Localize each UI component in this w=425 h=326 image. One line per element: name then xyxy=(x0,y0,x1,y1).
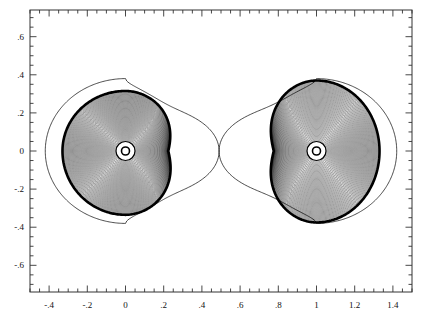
y-tick-label: -.6 xyxy=(2,260,24,270)
x-tick-label: 0 xyxy=(123,300,128,310)
contour-curves xyxy=(45,79,396,224)
y-tick-label: .6 xyxy=(2,32,24,42)
x-tick-label: -.2 xyxy=(82,300,92,310)
plot-canvas xyxy=(0,0,425,326)
x-tick-label: .8 xyxy=(275,300,282,310)
x-tick-label: .6 xyxy=(237,300,244,310)
x-tick-label: 1.2 xyxy=(349,300,360,310)
contour-plot-figure: -.4-.20.2.4.6.811.21.4 .6.4.20-.2-.4-.6 xyxy=(0,0,425,326)
x-tick-label: .2 xyxy=(160,300,167,310)
x-tick-label: .4 xyxy=(199,300,206,310)
y-tick-label: .4 xyxy=(2,70,24,80)
y-tick-label: 0 xyxy=(2,146,24,156)
y-tick-label: -.4 xyxy=(2,222,24,232)
y-tick-label: -.2 xyxy=(2,184,24,194)
x-tick-label: 1 xyxy=(314,300,319,310)
x-tick-label: 1.4 xyxy=(387,300,398,310)
y-tick-label: .2 xyxy=(2,108,24,118)
x-tick-label: -.4 xyxy=(44,300,54,310)
